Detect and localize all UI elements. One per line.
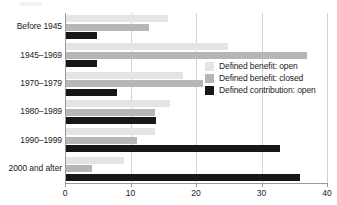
- legend-label: Defined benefit: closed: [219, 73, 303, 83]
- x-axis-tick-labels: 010203040: [0, 188, 337, 202]
- category-label: 2000 and after: [0, 163, 62, 173]
- x-tick-mark: [327, 183, 328, 187]
- bar: [65, 15, 168, 22]
- x-tick-mark: [262, 183, 263, 187]
- bar: [65, 165, 92, 172]
- x-tick-label: 0: [63, 188, 68, 198]
- legend-item: Defined benefit: closed: [205, 73, 316, 83]
- bar: [65, 52, 307, 59]
- bar: [65, 24, 149, 31]
- bar-group: [65, 13, 327, 41]
- legend-item: Defined benefit: open: [205, 61, 316, 71]
- category-label: 1990–1999: [0, 135, 62, 145]
- legend-swatch-icon: [205, 62, 214, 71]
- bar: [65, 89, 117, 96]
- bar: [65, 100, 170, 107]
- bar-chart: Before 19451945–19691970–19791980–198919…: [0, 0, 337, 205]
- x-tick-label: 10: [126, 188, 135, 198]
- legend: Defined benefit: openDefined benefit: cl…: [205, 61, 316, 95]
- legend-item: Defined contribution: open: [205, 85, 316, 95]
- bar: [65, 174, 300, 181]
- bar: [65, 80, 203, 87]
- x-tick-mark: [65, 183, 66, 187]
- category-label: 1970–1979: [0, 78, 62, 88]
- x-tick-label: 30: [257, 188, 266, 198]
- legend-swatch-icon: [205, 86, 214, 95]
- top-edge-artifact: [20, 2, 42, 6]
- x-tick-mark: [131, 183, 132, 187]
- x-tick-label: 20: [191, 188, 200, 198]
- bar: [65, 145, 280, 152]
- bar: [65, 60, 97, 67]
- category-label: Before 1945: [0, 21, 62, 31]
- gridline-40: [327, 13, 328, 183]
- bar: [65, 117, 156, 124]
- legend-label: Defined contribution: open: [219, 85, 316, 95]
- x-tick-mark: [196, 183, 197, 187]
- legend-label: Defined benefit: open: [219, 61, 298, 71]
- bar: [65, 128, 155, 135]
- y-axis-line: [65, 13, 66, 183]
- category-label: 1980–1989: [0, 106, 62, 116]
- legend-swatch-icon: [205, 74, 214, 83]
- bar-group: [65, 126, 327, 154]
- bar: [65, 157, 124, 164]
- bar: [65, 137, 137, 144]
- bar: [65, 43, 228, 50]
- x-tick-label: 40: [322, 188, 331, 198]
- bar: [65, 109, 155, 116]
- bar-group: [65, 155, 327, 183]
- bar: [65, 72, 183, 79]
- category-axis-labels: Before 19451945–19691970–19791980–198919…: [0, 13, 62, 183]
- bar: [65, 32, 97, 39]
- bars-layer: [65, 13, 327, 183]
- bar-group: [65, 98, 327, 126]
- category-label: 1945–1969: [0, 50, 62, 60]
